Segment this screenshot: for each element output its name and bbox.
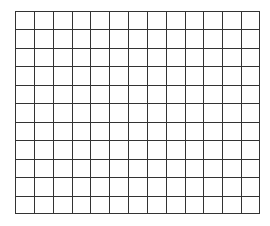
- grid-horizontal-line: [15, 11, 259, 12]
- grid-horizontal-line: [15, 48, 259, 49]
- grid: [15, 11, 260, 214]
- grid-vertical-line: [166, 11, 167, 213]
- grid-vertical-line: [128, 11, 129, 213]
- grid-vertical-line: [90, 11, 91, 213]
- grid-vertical-line: [241, 11, 242, 213]
- grid-vertical-line: [72, 11, 73, 213]
- grid-horizontal-line: [15, 177, 259, 178]
- grid-vertical-line: [109, 11, 110, 213]
- grid-horizontal-line: [15, 140, 259, 141]
- grid-vertical-line: [34, 11, 35, 213]
- grid-vertical-line: [203, 11, 204, 213]
- grid-vertical-line: [147, 11, 148, 213]
- grid-horizontal-line: [15, 122, 259, 123]
- grid-horizontal-line: [15, 159, 259, 160]
- grid-vertical-line: [15, 11, 16, 213]
- grid-vertical-line: [53, 11, 54, 213]
- grid-horizontal-line: [15, 29, 259, 30]
- grid-vertical-line: [222, 11, 223, 213]
- grid-horizontal-line: [15, 196, 259, 197]
- grid-horizontal-line: [15, 103, 259, 104]
- grid-horizontal-line: [15, 66, 259, 67]
- grid-vertical-line: [185, 11, 186, 213]
- grid-horizontal-line: [15, 85, 259, 86]
